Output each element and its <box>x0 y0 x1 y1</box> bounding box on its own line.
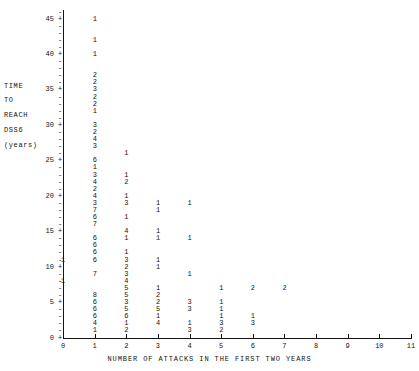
data-point: 1 <box>124 150 128 157</box>
y-axis-title-line-0: TIME <box>4 83 23 90</box>
x-tick-label: 8 <box>310 343 322 350</box>
y-axis-title-line-1: TO <box>4 97 14 104</box>
data-point: 3 <box>188 327 192 334</box>
data-point: 1 <box>219 285 223 292</box>
x-tick-label: 6 <box>247 343 259 350</box>
x-tick-mark <box>63 334 64 339</box>
y-minor-tick: - <box>58 172 62 179</box>
data-point: 7 <box>93 221 97 228</box>
data-point: 1 <box>93 108 97 115</box>
y-tick-label: 45 <box>36 16 54 23</box>
x-tick-mark <box>348 334 349 339</box>
y-tick-label: 35 <box>36 86 54 93</box>
y-tick-label: 30 <box>36 122 54 129</box>
x-tick-mark <box>316 334 317 339</box>
data-point: 1 <box>61 278 65 285</box>
x-tick-mark <box>95 334 96 339</box>
y-tick-label: 25 <box>36 157 54 164</box>
data-point: 7 <box>93 271 97 278</box>
x-tick-label: 2 <box>120 343 132 350</box>
y-tick-label: 0 <box>36 335 54 342</box>
data-point: 4 <box>156 320 160 327</box>
x-tick-mark <box>284 334 285 339</box>
y-minor-tick: - <box>58 327 62 334</box>
data-point: 3 <box>251 320 255 327</box>
y-major-tick: + <box>58 264 62 271</box>
data-point: 3 <box>188 306 192 313</box>
x-tick-label: 4 <box>184 343 196 350</box>
y-axis-spine <box>63 10 64 334</box>
y-minor-tick: - <box>58 179 62 186</box>
x-tick-label: 0 <box>57 343 69 350</box>
y-major-tick: + <box>58 157 62 164</box>
y-minor-tick: - <box>58 30 62 37</box>
y-minor-tick: - <box>58 235 62 242</box>
data-point: 1 <box>93 327 97 334</box>
y-minor-tick: - <box>58 72 62 79</box>
y-major-tick: + <box>58 193 62 200</box>
y-axis-title-line-3: DSS6 <box>4 127 23 134</box>
y-minor-tick: - <box>58 37 62 44</box>
y-minor-tick: - <box>58 164 62 171</box>
data-point: 1 <box>188 271 192 278</box>
y-minor-tick: - <box>58 23 62 30</box>
y-minor-tick: - <box>58 129 62 136</box>
y-minor-tick: - <box>58 79 62 86</box>
x-tick-mark <box>126 334 127 339</box>
y-major-tick: + <box>58 299 62 306</box>
x-tick-mark <box>190 334 191 339</box>
x-tick-mark <box>379 334 380 339</box>
y-tick-label: 5 <box>36 299 54 306</box>
y-minor-tick: - <box>58 292 62 299</box>
data-point: 2 <box>219 327 223 334</box>
x-axis-spine <box>63 338 411 339</box>
y-minor-tick: - <box>58 313 62 320</box>
data-point: 3 <box>124 200 128 207</box>
y-minor-tick: - <box>58 108 62 115</box>
y-minor-tick: - <box>58 58 62 65</box>
data-point: 6 <box>93 257 97 264</box>
y-minor-tick: - <box>58 65 62 72</box>
data-point: 3 <box>93 143 97 150</box>
y-minor-tick: - <box>58 200 62 207</box>
data-point: 1 <box>124 235 128 242</box>
data-point: 1 <box>93 37 97 44</box>
y-minor-tick: - <box>58 221 62 228</box>
y-minor-tick: - <box>58 101 62 108</box>
y-major-tick: + <box>58 86 62 93</box>
data-point: 2 <box>124 179 128 186</box>
y-axis-title-line-4: (years) <box>4 142 38 149</box>
y-major-tick: + <box>58 122 62 129</box>
x-tick-label: 7 <box>278 343 290 350</box>
y-minor-tick: - <box>58 94 62 101</box>
x-tick-label: 1 <box>89 343 101 350</box>
y-minor-tick: - <box>58 285 62 292</box>
y-minor-tick: - <box>58 9 62 16</box>
data-point: 1 <box>188 235 192 242</box>
y-minor-tick: - <box>58 214 62 221</box>
x-tick-label: 3 <box>152 343 164 350</box>
y-major-tick: + <box>58 335 62 342</box>
x-tick-mark <box>158 334 159 339</box>
data-point: 1 <box>93 16 97 23</box>
x-axis-title: NUMBER OF ATTACKS IN THE FIRST TWO YEARS <box>0 355 419 363</box>
data-point: 2 <box>251 285 255 292</box>
y-tick-label: 10 <box>36 264 54 271</box>
y-minor-tick: - <box>58 143 62 150</box>
data-point: 2 <box>282 285 286 292</box>
y-minor-tick: - <box>58 136 62 143</box>
data-point: 1 <box>61 257 65 264</box>
y-minor-tick: - <box>58 306 62 313</box>
y-minor-tick: - <box>58 242 62 249</box>
y-tick-label: 40 <box>36 51 54 58</box>
y-minor-tick: - <box>58 186 62 193</box>
data-point: 1 <box>124 214 128 221</box>
data-point: 1 <box>188 200 192 207</box>
y-major-tick: + <box>58 228 62 235</box>
data-point: 1 <box>156 207 160 214</box>
y-tick-label: 15 <box>36 228 54 235</box>
y-major-tick: + <box>58 16 62 23</box>
y-major-tick: + <box>58 51 62 58</box>
data-point: 2 <box>124 327 128 334</box>
x-tick-mark <box>253 334 254 339</box>
